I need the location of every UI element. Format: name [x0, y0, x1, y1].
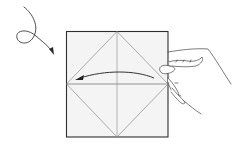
turn-over-arrow-icon	[17, 7, 54, 55]
paper-square	[67, 32, 169, 138]
origami-diagram	[0, 0, 247, 146]
hand-icon	[160, 49, 231, 114]
